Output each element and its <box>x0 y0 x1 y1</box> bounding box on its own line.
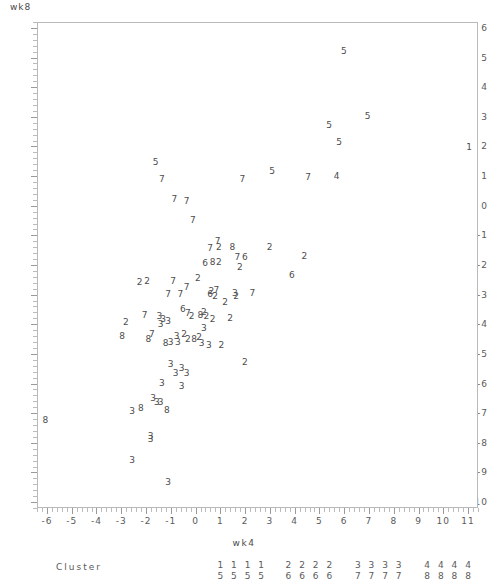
x-tick-mark <box>319 508 320 514</box>
x-tick-mark <box>121 508 122 514</box>
cluster-legend: Cluster 15151515262626263737373748484848 <box>0 556 488 588</box>
x-tick-minor <box>250 508 251 512</box>
x-tick-mark <box>344 508 345 514</box>
x-tick-minor <box>285 508 286 512</box>
data-point-marker: 7 <box>178 290 184 299</box>
data-point-marker: 3 <box>154 398 160 407</box>
x-tick-minor <box>62 508 63 512</box>
data-point-marker: 2 <box>201 307 207 316</box>
x-tick-minor <box>131 508 132 512</box>
x-tick-minor <box>305 508 306 512</box>
x-tick-mark <box>270 508 271 514</box>
x-tick-minor <box>280 508 281 512</box>
data-point-marker: 3 <box>168 337 174 346</box>
x-tick-minor <box>37 508 38 512</box>
data-point-marker: 2 <box>227 313 233 322</box>
x-tick-mark <box>369 508 370 514</box>
data-point-marker: 8 <box>119 331 125 340</box>
data-point-marker: 2 <box>137 278 143 287</box>
x-tick-mark <box>72 508 73 514</box>
cluster-legend-entry-bottom: 8 <box>459 571 477 582</box>
data-point-marker: 3 <box>129 456 135 465</box>
x-tick-mark <box>47 508 48 514</box>
x-tick-mark <box>196 508 197 514</box>
data-point-marker: 3 <box>129 407 135 416</box>
x-tick-minor <box>201 508 202 512</box>
x-tick-minor <box>42 508 43 512</box>
data-point-marker: 7 <box>184 282 190 291</box>
x-tick-minor <box>106 508 107 512</box>
x-tick-minor <box>111 508 112 512</box>
x-tick-minor <box>300 508 301 512</box>
data-point-marker: 2 <box>216 257 222 266</box>
x-tick-mark <box>468 508 469 514</box>
x-tick-minor <box>186 508 187 512</box>
data-point-marker: 7 <box>142 310 148 319</box>
data-point-marker: 3 <box>173 368 179 377</box>
data-point-marker: 2 <box>222 297 228 306</box>
x-tick-minor <box>374 508 375 512</box>
x-tick-mark <box>443 508 444 514</box>
data-point-marker: 8 <box>230 242 236 251</box>
x-tick-minor <box>275 508 276 512</box>
plot-area: 1555555477777777287668222262277772276223… <box>37 22 478 508</box>
cluster-legend-entry: 26 <box>320 560 338 582</box>
data-point-marker: 7 <box>207 244 213 253</box>
x-tick-minor <box>404 508 405 512</box>
data-point-marker: 8 <box>43 416 49 425</box>
data-point-marker: 3 <box>158 319 164 328</box>
data-point-marker: 3 <box>199 339 205 348</box>
data-point-marker: 5 <box>341 47 347 56</box>
data-point-marker: 7 <box>240 174 246 183</box>
data-point-marker: 2 <box>195 273 201 282</box>
x-tick-minor <box>67 508 68 512</box>
x-tick-minor <box>379 508 380 512</box>
x-tick-minor <box>389 508 390 512</box>
data-point-marker: 3 <box>184 368 190 377</box>
x-tick-minor <box>414 508 415 512</box>
x-tick-minor <box>92 508 93 512</box>
x-tick-minor <box>77 508 78 512</box>
x-tick-minor <box>423 508 424 512</box>
x-tick-minor <box>265 508 266 512</box>
x-tick-minor <box>230 508 231 512</box>
data-point-marker: 2 <box>301 251 307 260</box>
x-tick-minor <box>156 508 157 512</box>
x-tick-minor <box>384 508 385 512</box>
data-point-marker: 2 <box>267 242 273 251</box>
x-tick-minor <box>290 508 291 512</box>
x-tick-minor <box>260 508 261 512</box>
x-tick-minor <box>329 508 330 512</box>
scatter-plot-figure: wk8 wk4 6543210-1-2-3-4-5-6-7-8-9-10 -6-… <box>0 0 488 588</box>
data-point-marker: 5 <box>365 112 371 121</box>
data-point-marker: 6 <box>242 253 248 262</box>
cluster-legend-entry-bottom: 7 <box>390 571 408 582</box>
x-tick-minor <box>166 508 167 512</box>
x-tick-minor <box>314 508 315 512</box>
data-point-marker: 7 <box>305 173 311 182</box>
data-point-marker: 7 <box>159 174 165 183</box>
x-tick-minor <box>215 508 216 512</box>
x-tick-minor <box>191 508 192 512</box>
y-axis-title: wk8 <box>10 2 31 12</box>
data-point-marker: 7 <box>249 288 255 297</box>
x-tick-mark <box>96 508 97 514</box>
x-tick-minor <box>339 508 340 512</box>
data-point-marker: 3 <box>159 379 165 388</box>
data-point-marker: 2 <box>216 242 222 251</box>
data-point-marker: 2 <box>242 358 248 367</box>
data-point-marker: 2 <box>144 276 150 285</box>
x-tick-minor <box>324 508 325 512</box>
data-point-marker: 5 <box>326 121 332 130</box>
data-point-marker: 1 <box>466 143 472 152</box>
cluster-legend-entry-bottom: 5 <box>252 571 270 582</box>
x-tick-minor <box>181 508 182 512</box>
x-tick-minor <box>458 508 459 512</box>
cluster-legend-entry-top: 1 <box>252 560 270 571</box>
data-point-marker: 7 <box>171 195 177 204</box>
x-tick-minor <box>334 508 335 512</box>
x-tick-minor <box>364 508 365 512</box>
x-tick-minor <box>225 508 226 512</box>
data-point-marker: 3 <box>201 324 207 333</box>
x-tick-minor <box>52 508 53 512</box>
